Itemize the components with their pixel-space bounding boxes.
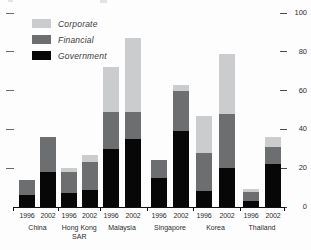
right-axis-tick-label: 40 <box>289 125 307 133</box>
right-axis-tick <box>280 51 287 52</box>
right-axis-tick-label: 100 <box>289 9 307 17</box>
singapore-2002-corporate-segment <box>173 85 189 91</box>
korea-2002-financial-segment <box>219 114 235 168</box>
left-axis-tick <box>6 168 14 169</box>
malaysia-2002-corporate-segment <box>125 38 141 112</box>
x-axis-group-tick <box>100 207 101 211</box>
korea-1996-government-segment <box>196 191 212 207</box>
right-axis-tick <box>280 90 287 91</box>
malaysia-2002-government-segment <box>125 139 141 207</box>
malaysia-1996-government-segment <box>103 149 119 207</box>
singapore-1996-financial-segment <box>151 160 167 177</box>
left-axis-tick <box>6 129 14 130</box>
malaysia-2002-financial-segment <box>125 112 141 139</box>
malaysia-1996-financial-segment <box>103 112 119 149</box>
china-1996-government-segment <box>19 195 35 207</box>
x-axis-group-tick <box>58 207 59 211</box>
thailand-1996-financial-segment <box>243 192 259 201</box>
right-axis-tick-label: 60 <box>289 87 307 95</box>
hong-kong-sar-1996-corporate-segment <box>61 168 77 172</box>
singapore-2002-government-segment <box>173 131 189 207</box>
country-label: Malaysia <box>99 224 145 233</box>
hong-kong-sar-2002-government-segment <box>82 190 98 207</box>
left-axis-tick <box>6 90 14 91</box>
year-label: 2002 <box>258 212 288 219</box>
left-axis-tick <box>6 51 14 52</box>
korea-1996-financial-segment <box>196 153 212 192</box>
x-axis-group-tick <box>147 207 148 211</box>
right-axis-tick-label: 0 <box>289 203 307 211</box>
right-axis-tick <box>280 13 287 14</box>
thailand-1996-government-segment <box>243 201 259 207</box>
korea-2002-government-segment <box>219 168 235 207</box>
hong-kong-sar-1996-government-segment <box>61 193 77 207</box>
right-axis-tick <box>280 168 287 169</box>
korea-2002-corporate-segment <box>219 54 235 114</box>
singapore-1996-government-segment <box>151 178 167 207</box>
thailand-2002-corporate-segment <box>265 137 281 147</box>
china-2002-government-segment <box>40 172 56 207</box>
country-label: Thailand <box>239 224 285 233</box>
x-axis-group-tick <box>193 207 194 211</box>
singapore-2002-financial-segment <box>173 91 189 132</box>
thailand-2002-financial-segment <box>265 147 281 164</box>
right-axis-tick <box>280 129 287 130</box>
china-2002-financial-segment <box>40 137 56 172</box>
thailand-2002-government-segment <box>265 164 281 207</box>
right-axis-tick-label: 80 <box>289 48 307 56</box>
country-label: China <box>15 224 61 233</box>
plot-area: 10080604020019962002China19962002Hong Ko… <box>0 0 311 250</box>
hong-kong-sar-2002-financial-segment <box>82 162 98 189</box>
hong-kong-sar-1996-financial-segment <box>61 172 77 193</box>
hong-kong-sar-2002-corporate-segment <box>82 155 98 163</box>
x-axis-baseline <box>13 207 284 208</box>
malaysia-1996-corporate-segment <box>103 67 119 112</box>
country-label: Singapore <box>147 224 193 233</box>
china-1996-financial-segment <box>19 180 35 196</box>
right-axis-tick-label: 20 <box>289 164 307 172</box>
x-axis-group-tick <box>284 207 285 211</box>
x-axis-group-tick <box>240 207 241 211</box>
stacked-bar-chart: CorporateFinancialGovernment 10080604020… <box>0 0 311 250</box>
country-label: Hong Kong SAR <box>56 224 102 241</box>
country-label: Korea <box>193 224 239 233</box>
thailand-1996-corporate-segment <box>243 189 259 193</box>
x-axis-group-tick <box>13 207 14 211</box>
left-axis-tick <box>6 13 14 14</box>
korea-1996-corporate-segment <box>196 116 212 153</box>
